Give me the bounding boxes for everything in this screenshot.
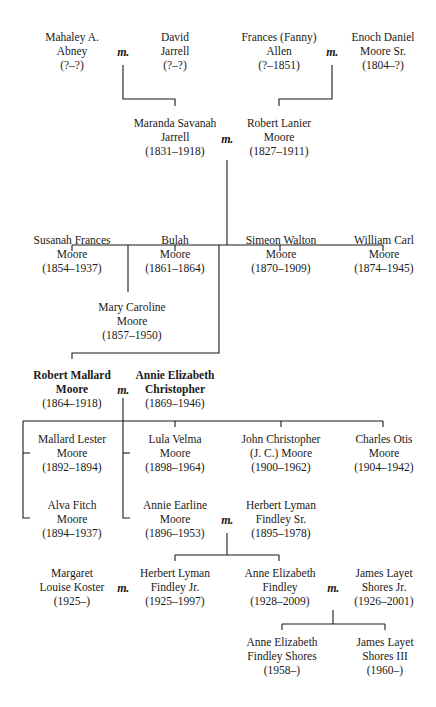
person-anne-findley: Anne Elizabeth Findley (1928–2009) [244,567,315,608]
person-susanah-moore: Susanah Frances Moore (1854–1937) [34,234,111,275]
person-robert-mallard-moore: Robert Mallard Moore (1864–1918) [33,369,111,410]
person-william-moore: William Carl Moore (1874–1945) [354,234,414,275]
connector-lula-annie-earline [123,421,130,518]
connector-mallard-alva [23,421,30,518]
person-annie-christopher: Annie Elizabeth Christopher (1869–1946) [136,369,215,410]
person-simeon-moore: Simeon Walton Moore (1870–1909) [246,234,317,275]
marriage-symbol: m. [117,581,128,596]
marriage-symbol: m. [221,513,232,528]
person-john-moore: John Christopher (J. C.) Moore (1900–196… [242,433,321,474]
marriage-symbol: m. [117,383,128,398]
marriage-symbol: m. [117,45,128,60]
person-maranda-jarrell: Maranda Savanah Jarrell (1831–1918) [134,117,217,158]
person-charles-moore: Charles Otis Moore (1904–1942) [354,433,413,474]
person-enoch-moore-sr: Enoch Daniel Moore Sr. (1804–?) [352,31,415,72]
person-annie-earline-moore: Annie Earline Moore (1896–1953) [143,499,207,540]
person-herbert-findley-jr: Herbert Lyman Findley Jr. (1925–1997) [140,567,210,608]
person-robert-lanier-moore: Robert Lanier Moore (1827–1911) [247,117,311,158]
person-anne-shores: Anne Elizabeth Findley Shores (1958–) [246,636,317,677]
person-mahaley-abney: Mahaley A. Abney (?–?) [45,31,99,72]
person-alva-moore: Alva Fitch Moore (1894–1937) [42,499,101,540]
person-lula-moore: Lula Velma Moore (1898–1964) [145,433,204,474]
person-james-shores-iii: James Layet Shores III (1960–) [356,636,413,677]
marriage-symbol: m. [326,45,337,60]
person-james-shores-jr: James Layet Shores Jr. (1926–2001) [354,567,413,608]
marriage-symbol: m. [327,581,338,596]
person-herbert-findley-sr: Herbert Lyman Findley Sr. (1895–1978) [246,499,316,540]
person-mary-moore: Mary Caroline Moore (1857–1950) [98,301,165,342]
marriage-symbol: m. [221,132,232,147]
person-bulah-moore: Bulah Moore (1861–1864) [145,234,204,275]
person-david-jarrell: David Jarrell (?–?) [161,31,190,72]
person-mallard-moore: Mallard Lester Moore (1892–1894) [38,433,106,474]
person-frances-allen: Frances (Fanny) Allen (?–1851) [241,31,316,72]
person-margaret-koster: Margaret Louise Koster (1925–) [40,567,105,608]
